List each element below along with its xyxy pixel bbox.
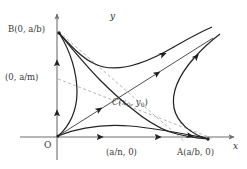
point-label-a-over-n: (a/n, 0) xyxy=(106,148,137,157)
trajectory-upper-separatrix xyxy=(59,27,212,68)
point-label-c-sub2: 0 xyxy=(141,101,145,108)
point-label-b: B(0, a/b) xyxy=(8,25,45,34)
origin-label: O xyxy=(44,141,51,150)
point-b-dot xyxy=(57,31,60,34)
point-label-c-base: C(x xyxy=(112,97,127,107)
nullcline-am-to-a xyxy=(58,79,214,139)
trajectory-right-branch xyxy=(173,34,220,139)
flow-arrow-upper-trajectory xyxy=(150,54,164,60)
point-label-c-sub1: 0 xyxy=(127,101,131,108)
point-label-a-over-m: (0, a/m) xyxy=(5,73,38,82)
y-axis-label: y xyxy=(110,12,115,21)
point-origin-dot xyxy=(57,135,60,138)
trajectory-group xyxy=(58,27,220,139)
point-label-c: C(x0, y0) xyxy=(112,98,148,107)
separatrix-group xyxy=(58,38,213,136)
point-label-a: A(a/b, 0) xyxy=(177,148,214,157)
phase-plane-figure: y x O B(0, a/b) (0, a/m) C(x0, y0) (a/n,… xyxy=(0,0,247,169)
separatrix-line xyxy=(58,38,213,136)
x-axis-label: x xyxy=(233,142,238,151)
point-a-dot xyxy=(206,137,209,140)
point-label-c-mid: , y xyxy=(130,97,140,107)
equilibrium-point-group xyxy=(57,31,210,140)
